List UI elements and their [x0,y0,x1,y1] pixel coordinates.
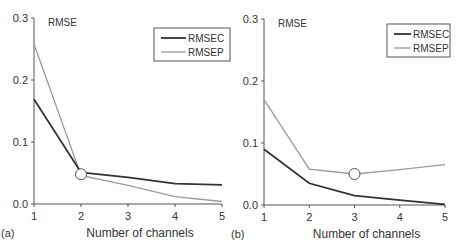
chart-panel-b: 0.00.10.20.312345RMSENumber of channels(… [231,13,450,241]
figure: 0.00.10.20.312345RMSENumber of channels(… [0,0,466,247]
x-tick-label: 1 [261,211,267,223]
optimum-marker [76,169,87,180]
optimum-marker [349,169,360,180]
y-axis-label: RMSE [48,17,77,28]
panel-label: (b) [231,228,244,240]
y-tick-label: 0.1 [243,137,258,149]
x-tick-label: 4 [397,211,403,223]
legend: RMSECRMSEP [387,24,450,57]
x-axis-label: Number of channels [313,227,420,241]
x-tick-label: 5 [442,211,448,223]
legend-label: RMSEC [413,29,449,40]
legend: RMSECRMSEP [154,28,230,61]
y-tick-label: 0.2 [243,75,258,87]
x-tick-label: 3 [125,210,131,222]
x-axis-label: Number of channels [86,226,193,240]
x-tick-label: 5 [219,210,225,222]
legend-label: RMSEP [188,47,224,58]
y-tick-label: 0.0 [243,199,258,211]
series-rmsep [264,100,445,174]
y-axis-label: RMSE [278,18,307,29]
y-tick-label: 0.1 [13,136,28,148]
chart-panel-a: 0.00.10.20.312345RMSENumber of channels(… [1,12,230,240]
y-tick-label: 0.3 [243,13,258,25]
panel-label: (a) [1,227,14,239]
x-tick-label: 2 [78,210,84,222]
legend-label: RMSEC [188,33,224,44]
x-tick-label: 3 [351,211,357,223]
series-rmsec [34,99,222,185]
legend-label: RMSEP [413,43,449,54]
x-tick-label: 4 [172,210,178,222]
y-tick-label: 0.3 [13,12,28,24]
x-tick-label: 1 [31,210,37,222]
y-tick-label: 0.0 [13,198,28,210]
y-tick-label: 0.2 [13,74,28,86]
x-tick-label: 2 [306,211,312,223]
